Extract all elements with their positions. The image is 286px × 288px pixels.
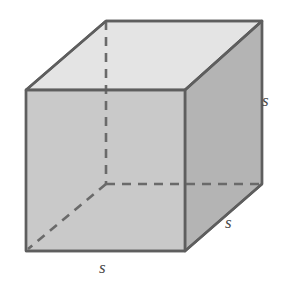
cube-figure: s s s [0,0,286,288]
dimension-label-bottom: s [99,259,106,276]
cube-illustration [0,0,286,288]
dimension-label-depth: s [225,214,232,231]
dimension-label-right: s [262,92,269,109]
